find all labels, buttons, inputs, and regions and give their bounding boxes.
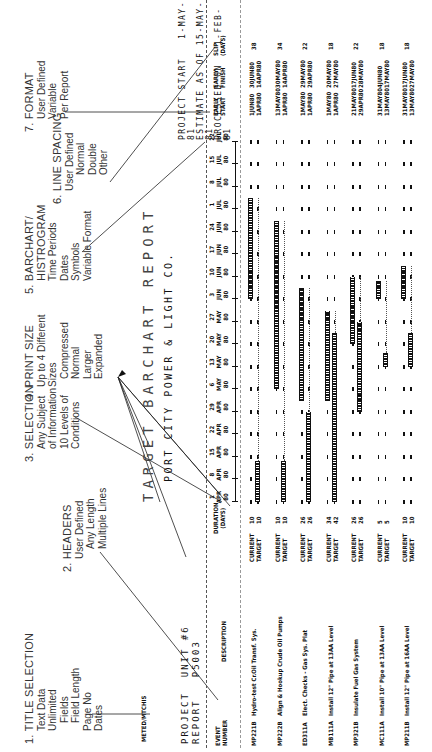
callout-title-selection: 1. TITLE SELECTION Text Data Unlimited F… <box>24 633 105 744</box>
grid-tick <box>250 163 252 167</box>
grid-tick <box>327 208 329 212</box>
grid-tick <box>308 185 310 189</box>
callout-line: User Defined <box>36 61 48 119</box>
grid-tick <box>301 230 303 234</box>
grid-tick <box>378 365 380 369</box>
grid-tick <box>276 500 278 504</box>
col-early-start: EARLY START <box>212 94 226 116</box>
callout-format: 7. FORMAT User Defined Variable Per Repo… <box>24 61 70 132</box>
grid-tick <box>334 230 336 234</box>
grid-tick <box>385 478 387 482</box>
target-bar <box>357 322 362 412</box>
grid-tick <box>301 478 303 482</box>
slip-dotted-line <box>309 288 310 412</box>
target-bar <box>383 354 388 368</box>
grid-tick <box>352 433 354 437</box>
event-description: Hydro-test Cr.Oil Transf. Sys. <box>250 629 257 716</box>
current-early-start: 1JUN80 <box>248 94 255 116</box>
current-label: CURRENT <box>376 533 383 562</box>
grid-tick <box>352 208 354 212</box>
current-label: CURRENT <box>248 533 255 562</box>
col-event-number: EVENT NUMBER <box>214 720 228 746</box>
callout-title: FORMAT <box>23 72 35 119</box>
callout-line: Up to 4 Different <box>36 314 48 387</box>
grid-tick <box>257 140 259 144</box>
target-label: TARGET <box>255 539 262 562</box>
grid-tick <box>403 455 405 459</box>
grid-tick <box>283 208 285 212</box>
grid-tick <box>308 140 310 144</box>
grid-tick <box>276 410 278 414</box>
grid-tick <box>327 455 329 459</box>
grid-tick <box>359 478 361 482</box>
grid-tick <box>327 163 329 167</box>
target-early-start: 29APR80 <box>357 89 364 116</box>
target-label: TARGET <box>306 539 313 562</box>
grid-tick <box>250 185 252 189</box>
callout-line: Dates <box>59 204 71 281</box>
grid-tick <box>301 163 303 167</box>
current-early-finish: 29MAY80 <box>299 60 306 88</box>
grid-tick <box>385 455 387 459</box>
current-duration: 5 <box>376 520 383 524</box>
target-early-finish: 14APR80 <box>281 61 288 88</box>
callout-title: PRINT SIZE <box>23 325 35 387</box>
callout-line: Fields <box>59 633 71 731</box>
col-number-label: NUMBER <box>221 720 228 746</box>
callout-line: Compressed <box>59 314 71 387</box>
slip-days: 38 <box>250 42 257 50</box>
grid-tick <box>308 253 310 257</box>
grid-tick <box>327 410 329 414</box>
slip-dotted-line <box>258 198 259 461</box>
grid-tick <box>250 410 252 414</box>
grid-tick <box>276 208 278 212</box>
grid-tick <box>410 500 412 504</box>
date-stamp: METED/MTCHIS <box>140 696 147 742</box>
callout-line: Sizes <box>47 314 59 387</box>
slip-days: 18 <box>403 42 410 50</box>
grid-tick <box>378 343 380 347</box>
grid-tick <box>403 410 405 414</box>
timeline-period: 22JUL80 <box>208 122 229 152</box>
grid-tick <box>378 253 380 257</box>
current-duration: 10 <box>274 516 281 524</box>
grid-tick <box>327 185 329 189</box>
grid-tick <box>385 208 387 212</box>
current-bar <box>325 311 330 401</box>
callout-line: Any Length <box>85 488 97 559</box>
callout-title: BARCHART/ <box>23 216 35 281</box>
grid-tick <box>410 478 412 482</box>
event-number: ED311A <box>301 722 308 746</box>
grid-tick <box>352 455 354 459</box>
callout-line: Page No <box>82 633 94 731</box>
timeline-mon: JUL <box>215 122 222 152</box>
slip-dotted-line <box>360 277 361 322</box>
grid-tick <box>403 163 405 167</box>
grid-tick <box>378 320 380 324</box>
callout-line: Field Length <box>70 633 82 731</box>
target-label: TARGET <box>357 539 364 562</box>
callout-number: 2. <box>61 562 73 572</box>
event-number: MB111A <box>327 721 334 746</box>
current-label: CURRENT <box>274 533 281 562</box>
target-duration: 42 <box>332 516 339 524</box>
grid-tick <box>334 140 336 144</box>
grid-tick <box>327 140 329 144</box>
grid-tick <box>359 500 361 504</box>
grid-tick <box>385 410 387 414</box>
grid-tick <box>276 433 278 437</box>
current-duration: 10 <box>248 516 255 524</box>
current-early-finish: 4JUN80 <box>376 66 383 88</box>
target-duration: 10 <box>255 516 262 524</box>
grid-tick <box>403 365 405 369</box>
grid-tick <box>385 500 387 504</box>
estimate-label: ESTIMATE AS OF <box>196 52 205 140</box>
current-label: CURRENT <box>401 533 408 562</box>
grid-tick <box>276 478 278 482</box>
current-bar <box>248 198 253 299</box>
slip-dotted-line <box>335 311 336 334</box>
grid-tick <box>352 253 354 257</box>
grid-tick <box>334 208 336 212</box>
grid-tick <box>403 343 405 347</box>
slip-dotted-line <box>411 266 412 334</box>
